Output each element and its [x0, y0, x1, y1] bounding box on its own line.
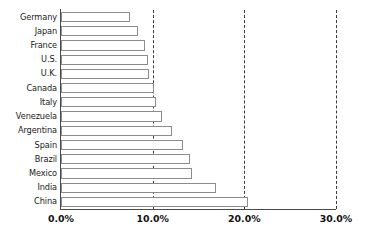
bar-chart: GermanyJapanFranceU.S.U.K.CanadaItalyVen…: [0, 0, 367, 241]
x-axis-tick-labels: 0.0%10.0%20.0%30.0%: [0, 213, 367, 229]
bar-row: [61, 10, 336, 24]
y-label-venezuela: Venezuela: [0, 112, 57, 121]
bar-india: [61, 183, 216, 193]
x-tick-label: 10.0%: [136, 213, 169, 225]
y-label-u-k-: U.K.: [0, 69, 57, 78]
bar-u-k-: [61, 69, 149, 79]
y-label-germany: Germany: [0, 13, 57, 22]
bar-row: [61, 38, 336, 52]
bar-row: [61, 152, 336, 166]
y-axis-category-labels: GermanyJapanFranceU.S.U.K.CanadaItalyVen…: [0, 10, 57, 209]
y-label-france: France: [0, 41, 57, 50]
bar-row: [61, 67, 336, 81]
bar-row: [61, 110, 336, 124]
y-label-india: India: [0, 183, 57, 192]
bar-row: [61, 181, 336, 195]
y-label-u-s-: U.S.: [0, 55, 57, 64]
bar-row: [61, 53, 336, 67]
bar-venezuela: [61, 111, 162, 121]
bar-row: [61, 166, 336, 180]
y-label-brazil: Brazil: [0, 155, 57, 164]
bar-row: [61, 81, 336, 95]
bar-japan: [61, 26, 138, 36]
bar-argentina: [61, 126, 172, 136]
x-tick-label: 0.0%: [48, 213, 74, 225]
bar-china: [61, 197, 248, 207]
x-tick-label: 30.0%: [320, 213, 353, 225]
y-label-mexico: Mexico: [0, 169, 57, 178]
bar-mexico: [61, 168, 192, 178]
bar-canada: [61, 83, 154, 93]
bar-u-s-: [61, 55, 148, 65]
bar-row: [61, 195, 336, 209]
y-label-italy: Italy: [0, 98, 57, 107]
bar-germany: [61, 12, 130, 22]
bar-brazil: [61, 154, 190, 164]
bar-italy: [61, 97, 156, 107]
bar-row: [61, 24, 336, 38]
bar-spain: [61, 140, 183, 150]
y-label-japan: Japan: [0, 27, 57, 36]
y-label-canada: Canada: [0, 84, 57, 93]
bar-row: [61, 138, 336, 152]
gridline-300: [336, 10, 337, 209]
y-label-argentina: Argentina: [0, 126, 57, 135]
plot-area: [61, 10, 336, 209]
bar-row: [61, 95, 336, 109]
y-label-spain: Spain: [0, 141, 57, 150]
x-tick-label: 20.0%: [228, 213, 261, 225]
bar-france: [61, 40, 145, 50]
bar-row: [61, 124, 336, 138]
y-label-china: China: [0, 197, 57, 206]
